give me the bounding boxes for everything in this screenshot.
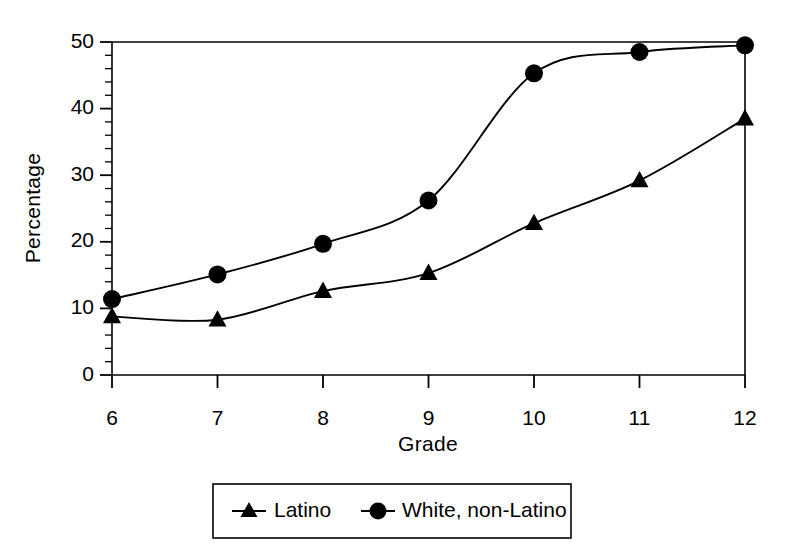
x-tick-label: 8 [317, 406, 329, 429]
x-tick-labels: 6 7 8 9 10 11 12 [106, 406, 757, 429]
data-point-marker [420, 192, 438, 210]
data-point-marker [103, 307, 121, 323]
x-tick-label: 10 [522, 406, 545, 429]
y-tick-label: 50 [71, 29, 94, 52]
data-point-marker [525, 214, 543, 230]
y-axis-major-ticks [100, 42, 112, 375]
legend-label-latino: Latino [274, 498, 331, 521]
legend-label-white-non-latino: White, non-Latino [402, 498, 567, 521]
x-tick-label: 9 [423, 406, 435, 429]
y-tick-label: 20 [71, 228, 94, 251]
chart-figure: 50 40 30 20 10 0 6 7 8 9 10 11 12 Percen… [0, 0, 793, 558]
series-line [112, 45, 745, 299]
x-tick-label: 6 [106, 406, 118, 429]
data-series-layer [103, 36, 754, 326]
x-tick-label: 7 [212, 406, 224, 429]
data-point-marker [736, 36, 754, 54]
x-tick-label: 12 [733, 406, 756, 429]
x-tick-label: 11 [629, 406, 651, 429]
x-axis-title: Grade [398, 432, 458, 455]
data-point-marker [631, 43, 649, 61]
y-tick-label: 40 [71, 95, 94, 118]
y-tick-label: 30 [71, 162, 94, 185]
data-point-marker [736, 109, 754, 125]
y-tick-label: 0 [82, 362, 94, 385]
data-point-marker [209, 265, 227, 283]
y-tick-labels: 50 40 30 20 10 0 [71, 29, 94, 385]
chart-legend: Latino White, non-Latino [213, 484, 571, 538]
data-point-marker [630, 171, 648, 187]
series-line [112, 119, 745, 321]
data-point-marker [103, 290, 121, 308]
y-axis-title: Percentage [21, 153, 44, 263]
data-point-marker [525, 64, 543, 82]
y-tick-label: 10 [71, 295, 94, 318]
series-latino [103, 109, 754, 326]
line-chart: 50 40 30 20 10 0 6 7 8 9 10 11 12 Percen… [0, 0, 793, 558]
circle-marker-icon [370, 503, 387, 520]
x-axis-ticks [112, 375, 745, 388]
data-point-marker [314, 235, 332, 253]
